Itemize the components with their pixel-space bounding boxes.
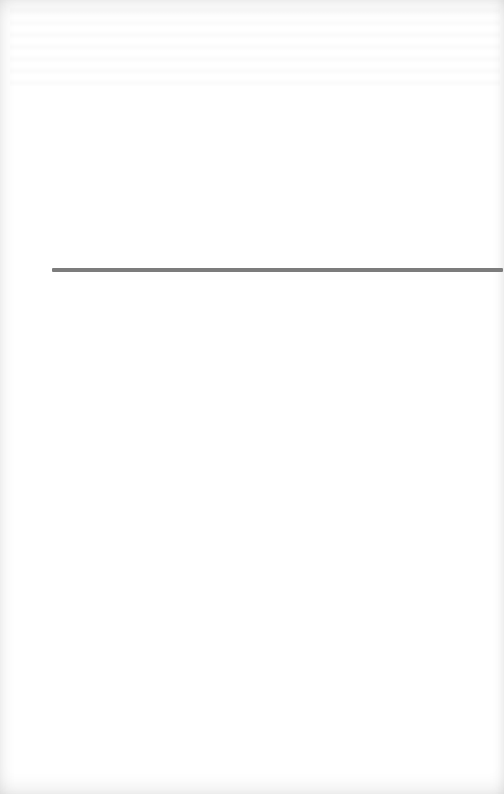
horizontal-rule: [52, 268, 503, 272]
bleed-through-text: [10, 6, 500, 86]
book-page: [0, 0, 504, 794]
